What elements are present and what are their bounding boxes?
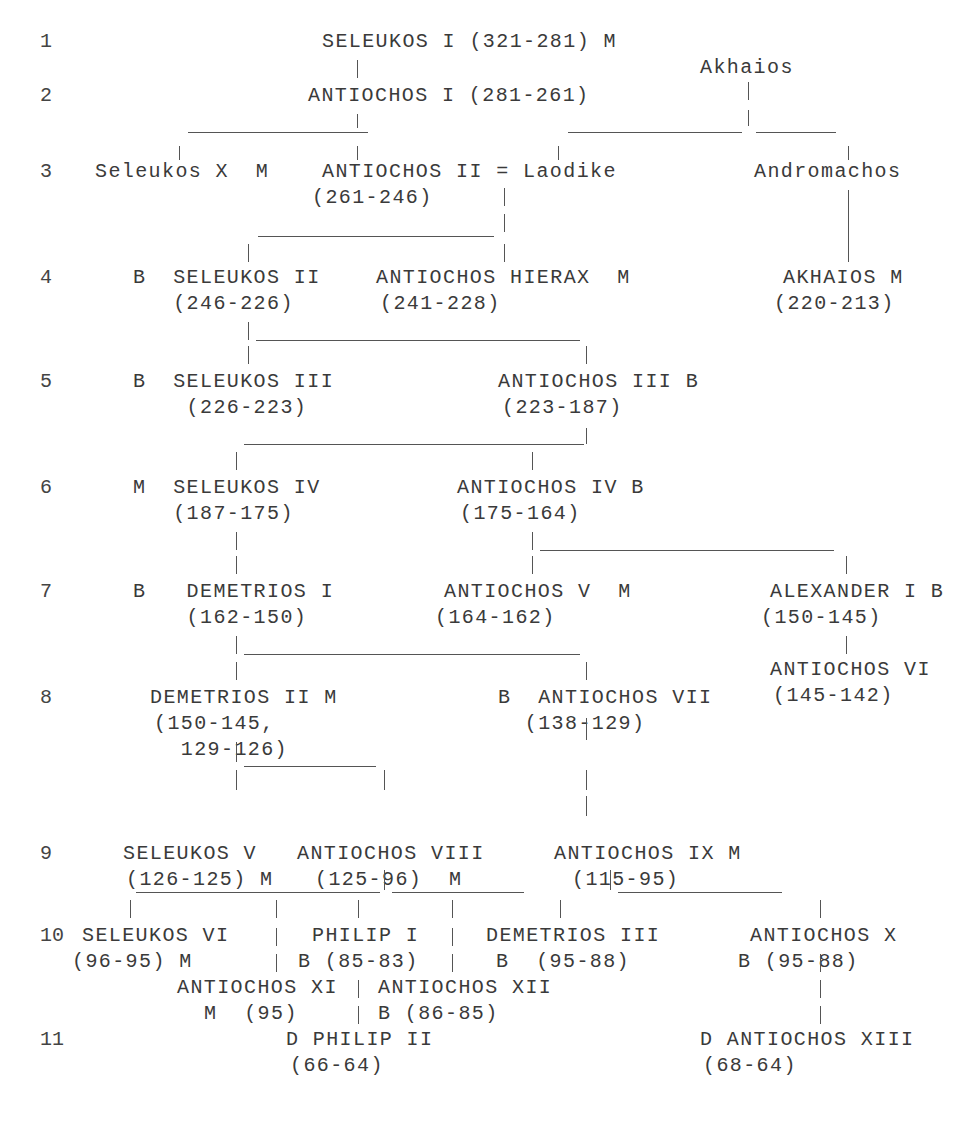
- person-seleukos-i: SELEUKOS I (321-281) M: [322, 32, 617, 52]
- descent-line-vertical: [820, 1006, 821, 1024]
- descent-line-vertical: [384, 770, 385, 790]
- descent-line-vertical: [452, 954, 453, 972]
- person-antiochos-xii: ANTIOCHOS XII: [378, 978, 552, 998]
- person-demetrios-i-line2: (162-150): [133, 608, 307, 628]
- person-alexander-i-line2: (150-145): [761, 608, 882, 628]
- descent-line-vertical: [179, 146, 180, 160]
- descent-line-vertical: [848, 190, 849, 262]
- descent-line-vertical: [820, 900, 821, 918]
- descent-line-vertical: [236, 662, 237, 680]
- generation-number: 1: [40, 32, 52, 52]
- person-antiochos-xi-line2: M (95): [204, 1004, 298, 1024]
- sibling-line-horizontal: [618, 892, 782, 893]
- descent-line-vertical: [586, 346, 587, 364]
- descent-line-vertical: [846, 556, 847, 574]
- sibling-line-horizontal: [244, 444, 584, 445]
- descent-line-vertical: [248, 244, 249, 262]
- descent-line-vertical: [504, 214, 505, 232]
- descent-line-vertical: [236, 556, 237, 574]
- generation-number: 2: [40, 86, 52, 106]
- sibling-line-horizontal: [568, 132, 742, 133]
- generation-number: 10: [40, 926, 64, 946]
- person-demetrios-i: B DEMETRIOS I: [133, 582, 334, 602]
- person-demetrios-ii-line3: 129-126): [154, 740, 288, 760]
- sibling-line-horizontal: [258, 236, 494, 237]
- generation-number: 3: [40, 162, 52, 182]
- person-antiochos-ix-line2: (115-95): [572, 870, 679, 890]
- sibling-line-horizontal: [392, 892, 524, 893]
- person-seleukos-iv: M SELEUKOS IV: [133, 478, 321, 498]
- person-seleukos-iv-line2: (187-175): [133, 504, 294, 524]
- person-seleukos-vi-line2: (96-95) M: [72, 952, 193, 972]
- person-demetrios-iii: DEMETRIOS III: [486, 926, 660, 946]
- person-antiochos-viii: ANTIOCHOS VIII: [297, 844, 485, 864]
- descent-line-vertical: [532, 556, 533, 574]
- generation-number: 4: [40, 268, 52, 288]
- sibling-line-horizontal: [136, 892, 380, 893]
- person-seleukos-v-line2: (126-125) M: [126, 870, 273, 890]
- descent-line-vertical: [504, 188, 505, 206]
- generation-number: 8: [40, 688, 52, 708]
- descent-line-vertical: [452, 928, 453, 946]
- person-antiochos-xiii: D ANTIOCHOS XIII: [700, 1030, 914, 1050]
- person-seleukos-iii-line2: (226-223): [133, 398, 307, 418]
- person-antiochos-hierax: ANTIOCHOS HIERAX M: [376, 268, 631, 288]
- descent-line-vertical: [848, 146, 849, 160]
- descent-line-vertical: [248, 346, 249, 364]
- person-antiochos-iii: ANTIOCHOS III B: [498, 372, 699, 392]
- seleukid-family-tree: 1234567891011 SELEUKOS I (321-281) MAkha…: [0, 0, 976, 1125]
- person-seleukos-ii-line2: (246-226): [133, 294, 294, 314]
- descent-line-vertical: [276, 900, 277, 918]
- descent-line-vertical: [276, 954, 277, 972]
- person-alexander-i: ALEXANDER I B: [770, 582, 944, 602]
- person-antiochos-v-line2: (164-162): [435, 608, 556, 628]
- person-philip-ii-line2: (66-64): [290, 1056, 384, 1076]
- descent-line-vertical: [504, 244, 505, 262]
- descent-line-vertical: [248, 322, 249, 340]
- person-philip-i: PHILIP I: [312, 926, 419, 946]
- descent-line-vertical: [820, 980, 821, 998]
- descent-line-vertical: [558, 146, 559, 160]
- person-antiochos-iii-line2: (223-187): [502, 398, 623, 418]
- descent-line-vertical: [846, 636, 847, 654]
- person-philip-i-line2: B (85-83): [298, 952, 419, 972]
- descent-line-vertical: [586, 662, 587, 680]
- person-antiochos-vi: ANTIOCHOS VI: [770, 660, 931, 680]
- person-demetrios-ii-line2: (150-145,: [154, 714, 275, 734]
- sibling-line-horizontal: [244, 766, 376, 767]
- descent-line-vertical: [586, 428, 587, 444]
- sibling-line-horizontal: [188, 132, 368, 133]
- descent-line-vertical: [532, 532, 533, 550]
- person-antiochos-iv-line2: (175-164): [460, 504, 581, 524]
- descent-line-vertical: [610, 870, 611, 890]
- person-antiochos-ix: ANTIOCHOS IX M: [554, 844, 742, 864]
- person-antiochos-vii: B ANTIOCHOS VII: [498, 688, 712, 708]
- generation-number: 5: [40, 372, 52, 392]
- descent-line-vertical: [358, 1006, 359, 1024]
- descent-line-vertical: [358, 900, 359, 918]
- generation-number: 11: [40, 1030, 64, 1050]
- person-akhaios-line2: (220-213): [774, 294, 895, 314]
- descent-line-vertical: [820, 954, 821, 972]
- person-akhaios-elder: Akhaios: [700, 58, 794, 78]
- descent-line-vertical: [236, 452, 237, 470]
- descent-line-vertical: [236, 636, 237, 654]
- generation-number: 9: [40, 844, 52, 864]
- generation-number: 7: [40, 582, 52, 602]
- generation-number: 6: [40, 478, 52, 498]
- descent-line-vertical: [276, 928, 277, 946]
- person-seleukos-vi: SELEUKOS VI: [82, 926, 229, 946]
- person-antiochos-xi: ANTIOCHOS XI: [177, 978, 338, 998]
- person-antiochos-xii-line2: B (86-85): [378, 1004, 499, 1024]
- descent-line-vertical: [130, 900, 131, 918]
- person-antiochos-vi-line2: (145-142): [773, 686, 894, 706]
- person-seleukos-ii: B SELEUKOS II: [133, 268, 321, 288]
- person-antiochos-x: ANTIOCHOS X: [750, 926, 897, 946]
- descent-line-vertical: [586, 770, 587, 790]
- descent-line-vertical: [586, 796, 587, 816]
- descent-line-vertical: [236, 770, 237, 790]
- descent-line-vertical: [748, 110, 749, 126]
- person-philip-ii: D PHILIP II: [286, 1030, 433, 1050]
- person-demetrios-iii-line2: B (95-88): [496, 952, 630, 972]
- descent-line-vertical: [236, 532, 237, 550]
